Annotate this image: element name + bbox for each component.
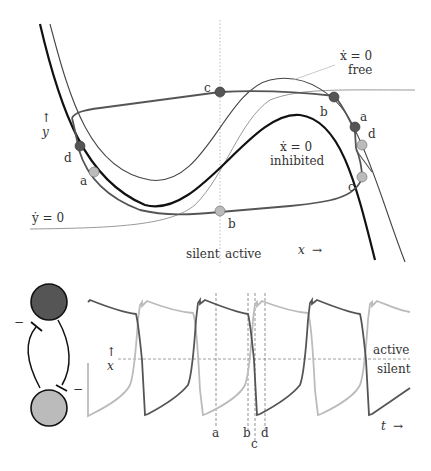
label-a-left: a (80, 174, 87, 188)
x-nullcline-inhibited (40, 24, 375, 260)
marker-label-d: d (261, 426, 269, 440)
marker-label-a: a (212, 426, 219, 440)
ts-y-arrow: ↑ (106, 345, 116, 359)
region-silent-label: silent (186, 247, 220, 261)
label-b-top: b (320, 105, 328, 119)
point-a-dark (350, 122, 360, 132)
ts-t-label: t (381, 419, 386, 433)
y-nullcline-label: ẏ = 0 (31, 211, 64, 225)
free-label-leader (293, 65, 335, 80)
label-c-right: c (348, 180, 355, 194)
marker-label-b: b (243, 426, 251, 440)
point-b-dark (329, 92, 339, 102)
inhibition-bar-left (31, 322, 42, 331)
inhibition-mark-right: − (73, 382, 83, 396)
marker-label-c: c (251, 437, 258, 451)
label-d-left: d (64, 151, 72, 165)
label-b-bottom: b (228, 217, 236, 231)
network-diagram: − − (14, 284, 83, 426)
neuron-top (31, 284, 67, 320)
inhibition-arc-right (58, 320, 69, 385)
ts-t-arrow: → (393, 419, 403, 433)
label-d-right: d (368, 127, 376, 141)
phase-plane: c b a d c d a b ẋ = 0 free ẋ = 0 inhibit… (30, 20, 415, 265)
inhibition-mark-left: − (14, 315, 24, 329)
ts-y-label: x (107, 359, 114, 373)
time-series: a b c d ↑ x t → active silent (88, 293, 411, 451)
point-d-dark (75, 141, 85, 151)
x-axis-arrow: → (312, 243, 322, 257)
figure: c b a d c d a b ẋ = 0 free ẋ = 0 inhibit… (0, 0, 431, 471)
limit-cycle-right-step (356, 150, 372, 172)
inhibited-label-line2: inhibited (270, 154, 325, 168)
inhibited-label-line1: ẋ = 0 (280, 140, 312, 154)
point-b-light (215, 206, 225, 216)
region-active-label: active (225, 247, 261, 261)
neuron-bottom (31, 390, 67, 426)
inhibition-bar-right (56, 385, 67, 391)
free-label-line2: free (348, 63, 372, 77)
point-d-light (357, 140, 367, 150)
x-axis-label: x (298, 243, 305, 257)
label-c-top: c (204, 81, 211, 95)
point-c-light (357, 172, 367, 182)
free-label-line1: ẋ = 0 (340, 49, 372, 63)
threshold-active-label: active (373, 343, 409, 357)
point-a-light (89, 167, 99, 177)
threshold-silent-label: silent (377, 362, 411, 376)
label-a-right: a (360, 110, 367, 124)
point-c-dark (215, 87, 225, 97)
inhibition-arc-left (28, 327, 40, 388)
y-axis-arrow: ↑ (41, 111, 51, 125)
y-axis-label: y (41, 125, 49, 139)
